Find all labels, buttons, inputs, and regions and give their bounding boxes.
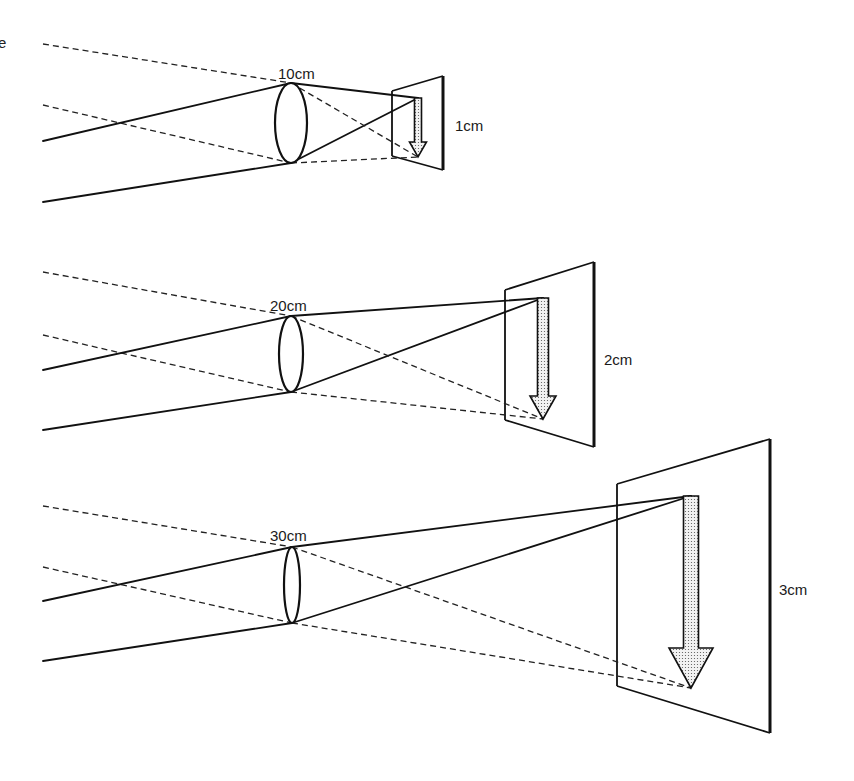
- distance-label-30cm: 30cm: [270, 527, 307, 544]
- lens-projection-diagram: 10cm 1cm 20cm 2cm 30cm 3cm: [0, 0, 854, 781]
- incoming-solid-ray: [43, 623, 292, 661]
- incoming-dashed-ray: [43, 567, 292, 623]
- incoming-dashed-ray: [43, 105, 291, 163]
- refracted-dashed-ray: [292, 547, 691, 688]
- incoming-solid-ray: [43, 163, 291, 202]
- image-size-label-3cm: 3cm: [779, 581, 807, 598]
- refracted-dashed-ray: [292, 623, 691, 688]
- refracted-solid-ray: [291, 83, 418, 98]
- panel-20cm: [43, 262, 594, 447]
- lens-icon: [279, 316, 303, 392]
- inverted-image-arrow-icon: [530, 298, 556, 419]
- incoming-solid-ray: [43, 547, 292, 601]
- lens-icon: [275, 83, 307, 163]
- screen-outline: [505, 262, 594, 447]
- refracted-solid-ray: [292, 496, 691, 623]
- incoming-dashed-ray: [43, 44, 291, 83]
- refracted-solid-ray: [291, 98, 418, 163]
- image-size-label-2cm: 2cm: [604, 351, 632, 368]
- incoming-dashed-ray: [43, 506, 292, 547]
- inverted-image-arrow-icon: [669, 496, 713, 688]
- distance-label-10cm: 10cm: [278, 65, 315, 82]
- panel-10cm: [43, 44, 443, 202]
- refracted-solid-ray: [292, 496, 691, 547]
- inverted-image-arrow-icon: [410, 98, 427, 157]
- refracted-dashed-ray: [291, 83, 418, 157]
- image-size-label-1cm: 1cm: [455, 117, 483, 134]
- panel-30cm: [43, 439, 770, 733]
- lens-icon: [284, 547, 300, 623]
- incoming-solid-ray: [43, 83, 291, 141]
- incoming-solid-ray: [43, 392, 291, 430]
- distance-label-20cm: 20cm: [270, 297, 307, 314]
- incoming-dashed-ray: [43, 272, 291, 316]
- incoming-solid-ray: [43, 316, 291, 370]
